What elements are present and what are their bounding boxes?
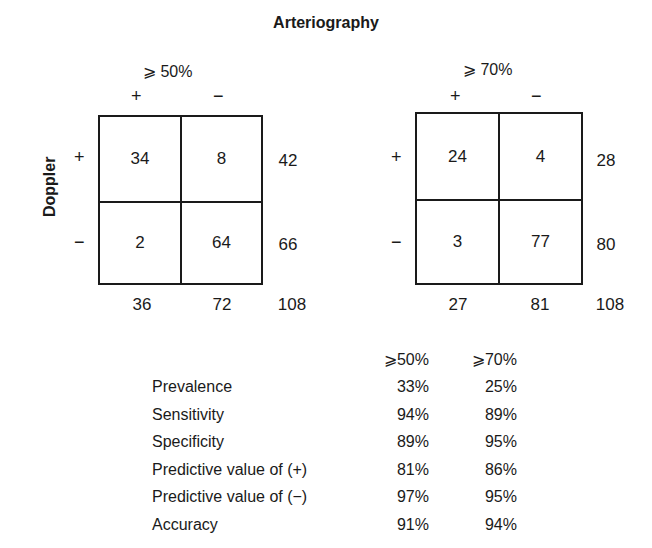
stats-row: Accuracy 91% 94%	[152, 511, 517, 539]
col-total-positive: 27	[440, 295, 476, 315]
col-total-negative: 72	[204, 295, 240, 315]
stats-row: Predictive value of (+) 81% 86%	[152, 456, 517, 484]
stat-label: Predictive value of (−)	[152, 484, 377, 512]
statistics-table: ⩾50% ⩾70% Prevalence 33% 25% Sensitivity…	[152, 346, 517, 539]
col-header-positive: +	[131, 86, 142, 107]
row-header-negative: −	[391, 232, 402, 253]
stats-header-blank	[152, 346, 377, 374]
grand-total: 108	[270, 295, 314, 315]
stat-value-70: 86%	[429, 456, 517, 484]
stat-value-70: 89%	[429, 401, 517, 429]
stat-value-50: 97%	[377, 484, 429, 512]
grand-total: 108	[588, 295, 632, 315]
stat-label: Specificity	[152, 429, 377, 457]
stat-value-70: 94%	[429, 511, 517, 539]
row-header-positive: +	[74, 147, 85, 168]
stats-row: Predictive value of (−) 97% 95%	[152, 484, 517, 512]
row-header-positive: +	[391, 147, 402, 168]
cell-true-negative: 64	[182, 203, 261, 283]
grid-box: 24 4 3 77	[415, 112, 583, 285]
row-header-negative: −	[74, 232, 85, 253]
stats-header-row: ⩾50% ⩾70%	[152, 346, 517, 374]
row-total-positive: 28	[588, 151, 624, 171]
cell-false-negative: 2	[100, 203, 180, 283]
row-total-positive: 42	[270, 151, 306, 171]
stats-row: Prevalence 33% 25%	[152, 374, 517, 402]
row-total-negative: 80	[588, 235, 624, 255]
stat-value-70: 95%	[429, 429, 517, 457]
doppler-axis-label: Doppler	[41, 157, 59, 217]
row-total-negative: 66	[270, 235, 306, 255]
stats-header-70: ⩾70%	[429, 346, 517, 374]
stats-header-50: ⩾50%	[377, 346, 429, 374]
stats-row: Specificity 89% 95%	[152, 429, 517, 457]
stat-label: Accuracy	[152, 511, 377, 539]
grid-box: 34 8 2 64	[98, 115, 263, 285]
stat-value-70: 95%	[429, 484, 517, 512]
stat-label: Prevalence	[152, 374, 377, 402]
threshold-label: ⩾ 50%	[143, 62, 192, 81]
stat-value-50: 89%	[377, 429, 429, 457]
col-header-negative: −	[213, 86, 224, 107]
stat-value-50: 81%	[377, 456, 429, 484]
cell-false-positive: 4	[500, 114, 581, 199]
cell-false-positive: 8	[182, 117, 261, 201]
col-header-positive: +	[450, 86, 461, 107]
cell-true-positive: 34	[100, 117, 180, 201]
threshold-label: ⩾ 70%	[463, 60, 512, 79]
stat-label: Sensitivity	[152, 401, 377, 429]
col-total-negative: 81	[522, 295, 558, 315]
cell-true-positive: 24	[417, 114, 498, 199]
stat-label: Predictive value of (+)	[152, 456, 377, 484]
cell-true-negative: 77	[500, 201, 581, 283]
stat-value-50: 91%	[377, 511, 429, 539]
stat-value-70: 25%	[429, 374, 517, 402]
figure-title: Arteriography	[0, 14, 652, 32]
col-header-negative: −	[531, 86, 542, 107]
stats-row: Sensitivity 94% 89%	[152, 401, 517, 429]
cell-false-negative: 3	[417, 201, 498, 283]
stat-value-50: 33%	[377, 374, 429, 402]
col-total-positive: 36	[124, 295, 160, 315]
stat-value-50: 94%	[377, 401, 429, 429]
